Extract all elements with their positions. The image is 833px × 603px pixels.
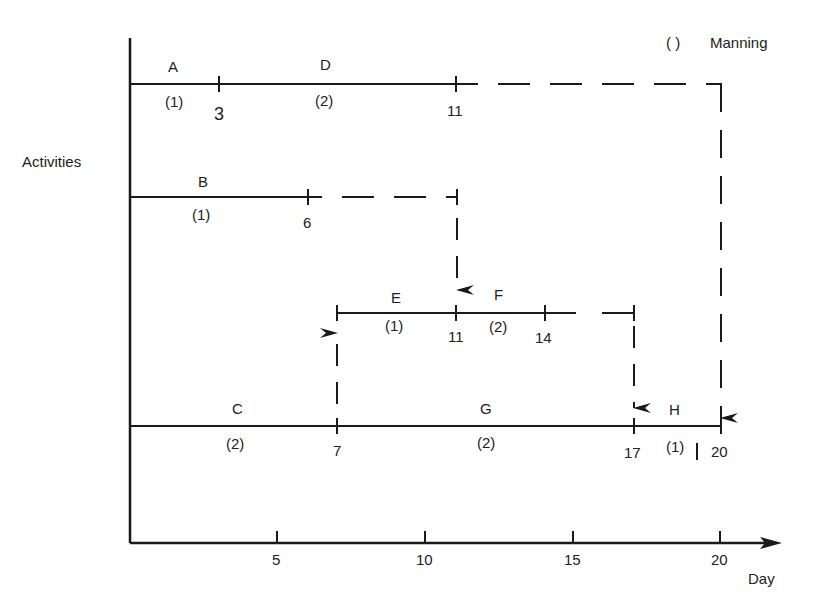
event-d-end: 11 (447, 102, 463, 119)
activity-e-label: E (391, 289, 401, 306)
event-e-end: 11 (448, 328, 464, 345)
x-tick-5: 5 (272, 551, 280, 568)
activity-b-manning: (1) (192, 206, 210, 223)
activity-b-label: B (198, 173, 208, 190)
x-tick-10: 10 (416, 551, 433, 568)
row-e-f (337, 305, 634, 408)
event-c-end: 7 (333, 442, 341, 459)
event-h-end: 20 (711, 443, 728, 460)
activity-c-label: C (232, 400, 243, 417)
event-a-end: 3 (214, 104, 224, 124)
x-tick-20: 20 (711, 551, 728, 568)
activity-c-manning: (2) (226, 435, 244, 452)
row-b (130, 189, 458, 290)
activity-diagram: Activities Day 5 10 15 20 ( ) Manning A … (0, 0, 833, 603)
event-b-end: 6 (303, 214, 311, 231)
activity-h-manning: (1) (666, 438, 684, 455)
event-g-end: 17 (624, 444, 641, 461)
x-axis (130, 531, 782, 549)
legend-label: Manning (710, 34, 768, 51)
activity-g-label: G (480, 400, 492, 417)
y-axis-label: Activities (22, 153, 81, 170)
x-axis-label: Day (748, 570, 775, 587)
activity-f-label: F (494, 286, 503, 303)
legend-symbol: ( ) (666, 34, 680, 51)
event-f-end: 14 (535, 329, 552, 346)
x-tick-15: 15 (564, 551, 581, 568)
activity-h-label: H (669, 401, 680, 418)
activity-f-manning: (2) (489, 318, 507, 335)
activity-a-label: A (168, 58, 178, 75)
activity-d-manning: (2) (315, 92, 333, 109)
activity-e-manning: (1) (385, 317, 403, 334)
activity-d-label: D (320, 56, 331, 73)
activity-g-manning: (2) (477, 434, 495, 451)
activity-a-manning: (1) (165, 93, 183, 110)
